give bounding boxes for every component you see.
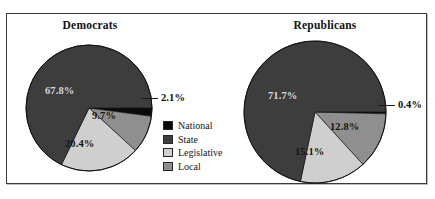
legend-item-label: State: [178, 134, 198, 145]
slice-label-republicans-state: 71.7%: [268, 90, 297, 101]
slice-label-democrats-local: 9.7%: [92, 110, 116, 121]
legend-swatch-icon: [163, 148, 173, 157]
legend-item-label: Local: [178, 161, 201, 172]
slice-label-democrats-national: 2.1%: [161, 92, 185, 103]
chart-legend: NationalStateLegislativeLocal: [163, 119, 235, 173]
chart-title-democrats: Democrats: [40, 19, 140, 31]
legend-item-label: National: [178, 120, 212, 131]
legend-swatch-icon: [163, 121, 173, 130]
slice-label-democrats-state: 67.8%: [45, 85, 74, 96]
legend-swatch-icon: [163, 162, 173, 171]
legend-item[interactable]: State: [163, 133, 235, 147]
leader-line-republicans-national: [378, 105, 395, 106]
pie-chart-republicans: [243, 40, 387, 184]
legend-item[interactable]: Legislative: [163, 146, 235, 160]
figure-canvas: Democrats 67.8% 9.7% 20.4% 2.1% National…: [0, 0, 435, 199]
legend-swatch-icon: [163, 135, 173, 144]
pie-svg-democrats: [25, 44, 153, 172]
slice-label-democrats-legislative: 20.4%: [65, 138, 94, 149]
legend-item-label: Legislative: [178, 147, 222, 158]
slice-label-republicans-legislative: 15.1%: [295, 146, 324, 157]
slice-label-republicans-local: 12.8%: [330, 121, 359, 132]
legend-item[interactable]: National: [163, 119, 235, 133]
slice-label-republicans-national: 0.4%: [398, 99, 422, 110]
pie-chart-democrats: [25, 44, 153, 172]
pie-svg-republicans: [243, 40, 387, 184]
chart-title-republicans: Republicans: [270, 19, 380, 31]
legend-item[interactable]: Local: [163, 160, 235, 174]
leader-line-democrats-national: [141, 98, 158, 99]
